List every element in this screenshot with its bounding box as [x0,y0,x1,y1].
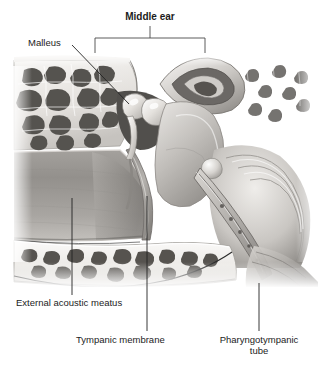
label-pharyngo-line2: tube [250,345,269,356]
label-tympanic-membrane: Tympanic membrane [76,334,165,345]
label-pharyngo-line1: Pharyngotympanic [220,334,299,345]
external-acoustic-meatus [14,150,146,242]
label-external-acoustic-meatus: External acoustic meatus [16,297,122,308]
inferior-temporal-bone [14,240,236,287]
label-middle-ear: Middle ear [0,11,300,22]
illustration-plate [0,53,318,288]
label-malleus: Malleus [28,37,61,48]
middle-ear-bracket [95,26,205,53]
ear-anatomy-figure [0,0,318,373]
label-pharyngotympanic-tube: Pharyngotympanictube [213,334,305,356]
